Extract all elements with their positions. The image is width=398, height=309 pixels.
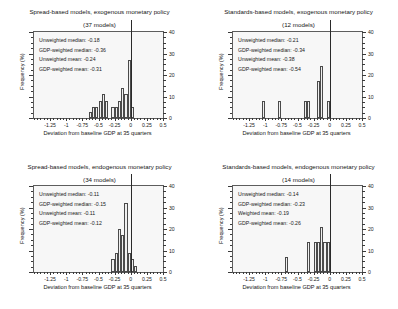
x-axis-minor-tick [79,272,80,274]
y-axis-minor-tick [163,59,166,60]
x-axis-minor-tick [137,272,138,274]
stat-annotation: GDP-weighted mean: -0.26 [238,219,301,228]
x-axis-minor-tick [310,118,311,120]
y-axis-major-tick-left [228,251,232,252]
y-axis-minor-tick [163,240,166,241]
y-axis-minor-tick [163,102,166,103]
x-axis-minor-tick [53,118,54,120]
x-axis-minor-tick [339,118,340,120]
y-axis-minor-tick [362,64,365,65]
y-axis-minor-tick [362,102,365,103]
x-axis-major-tick [99,272,100,275]
x-axis-minor-tick [359,118,360,120]
x-axis-minor-tick [37,272,38,274]
y-axis-major-tick [362,75,366,76]
y-axis-minor-tick-left [230,224,233,225]
x-axis-minor-tick [333,272,334,274]
panel-spread-exogenous: Spread-based models, exogenous monetary … [0,0,199,155]
x-axis-major-tick [249,272,250,275]
x-axis-minor-tick [288,118,289,120]
y-axis-minor-tick [163,70,166,71]
y-axis-minor-tick-left [31,91,34,92]
x-axis-tick-label: -0.5 [94,276,103,282]
x-axis-minor-tick [69,272,70,274]
x-axis-minor-tick [275,118,276,120]
x-axis-minor-tick [137,118,138,120]
y-axis-tick-label: 10 [368,94,374,100]
y-axis-minor-tick-left [31,113,34,114]
y-axis-minor-tick-left [230,202,233,203]
x-axis-minor-tick [47,272,48,274]
stat-annotation: GDP-weighted median: -0.36 [39,46,106,55]
y-axis-major-tick-left [29,32,33,33]
y-axis-tick-label: 20 [368,226,374,232]
x-axis-minor-tick [262,272,263,274]
y-axis-tick-label: 10 [169,94,175,100]
y-axis-minor-tick [362,86,365,87]
x-axis-minor-tick [288,272,289,274]
y-axis-minor-tick [362,240,365,241]
stat-annotation: GDP-weighted mean: -0.54 [238,65,301,74]
x-axis-minor-tick [291,272,292,274]
y-axis-minor-tick [362,43,365,44]
y-axis-minor-tick-left [31,197,34,198]
x-axis-minor-tick [118,272,119,274]
y-axis-minor-tick-left [230,48,233,49]
x-axis-minor-tick [86,118,87,120]
y-axis-minor-tick-left [230,197,233,198]
x-axis-major-tick [249,118,250,121]
y-axis-major-tick [163,251,167,252]
x-axis-minor-tick [37,118,38,120]
x-axis-major-tick [346,118,347,121]
x-axis-major-tick [66,118,67,121]
x-axis-minor-tick [285,272,286,274]
x-axis-minor-tick [259,118,260,120]
y-axis-tick-label: 20 [169,226,175,232]
x-axis-minor-tick [323,272,324,274]
x-axis-minor-tick [352,118,353,120]
y-axis-minor-tick-left [31,37,34,38]
x-axis-major-tick [298,118,299,121]
x-axis-minor-tick [268,118,269,120]
y-axis-minor-tick [362,218,365,219]
x-axis-minor-tick [140,272,141,274]
plot-area-wrapper: Frequency (%) Deviation from baseline GD… [199,155,398,309]
x-axis-minor-tick [73,118,74,120]
stat-annotation: Weighted mean: -0.19 [238,209,289,218]
y-axis-major-tick [362,208,366,209]
y-axis-tick-label: 30 [368,51,374,57]
x-axis-minor-tick [95,118,96,120]
x-axis-minor-tick [128,118,129,120]
stat-annotation: Unweighted median: -0.11 [39,190,99,199]
x-axis-major-tick [115,272,116,275]
x-axis-major-tick [82,118,83,121]
y-axis-major-tick [163,186,167,187]
x-axis-major-tick [99,118,100,121]
y-axis-minor-tick-left [230,240,233,241]
y-axis-minor-tick-left [230,234,233,235]
y-axis-minor-tick-left [230,107,233,108]
x-axis-tick-label: -0.25 [109,122,121,128]
x-axis-minor-tick [63,272,64,274]
y-axis-major-tick-left [228,54,232,55]
x-axis-minor-tick [124,118,125,120]
histogram-bar [307,101,310,118]
x-axis-minor-tick [44,118,45,120]
y-axis-minor-tick [362,80,365,81]
x-axis-minor-tick [359,272,360,274]
x-axis-tick-label: -0.25 [308,122,320,128]
y-axis-major-tick [163,54,167,55]
x-axis-minor-tick [304,272,305,274]
x-axis-minor-tick [307,272,308,274]
y-axis-major-tick-left [228,208,232,209]
x-axis-minor-tick [304,118,305,120]
x-axis-minor-tick [259,272,260,274]
x-axis-minor-tick [92,272,93,274]
x-axis-tick-label: -1 [263,122,268,128]
y-axis-minor-tick-left [230,102,233,103]
y-axis-major-tick-left [29,54,33,55]
zero-reference-line [330,174,331,272]
x-axis-tick-label: -1.25 [243,276,255,282]
y-axis-minor-tick-left [31,261,34,262]
y-axis-minor-tick-left [31,59,34,60]
